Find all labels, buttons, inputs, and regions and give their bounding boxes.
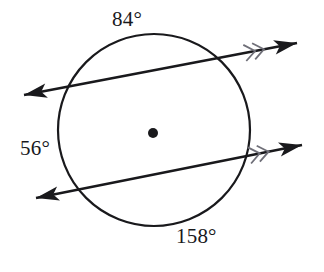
arc-label-bottom: 158° <box>176 226 217 247</box>
circle-center-dot <box>148 128 158 138</box>
lower-secant-line <box>36 142 302 200</box>
arc-label-left: 56° <box>20 138 50 159</box>
lower-secant-shaft <box>36 145 302 198</box>
upper-secant-line <box>24 40 297 98</box>
geometry-figure: 84° 56° 158° <box>0 0 324 272</box>
arc-label-top: 84° <box>112 9 142 30</box>
